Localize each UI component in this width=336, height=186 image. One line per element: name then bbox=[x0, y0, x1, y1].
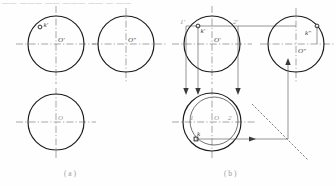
projection-arrow-1-b bbox=[183, 26, 188, 95]
figure-canvas: k' O' O″ O ( a ) bbox=[0, 0, 336, 186]
panel-b-front-view: k' O' 1' 2' bbox=[172, 6, 296, 84]
panel-a-group: k' O' O″ O ( a ) bbox=[16, 6, 166, 178]
front-aux-label-2-b: 2' bbox=[233, 18, 239, 26]
panel-b-top-view: k O 1 2 bbox=[172, 88, 256, 158]
drawing-sheet: —— ——— —— ——— —— — —— k' O' O″ bbox=[0, 0, 336, 186]
panel-a-front-view: k' O' bbox=[16, 6, 96, 84]
front-aux-label-1-b: 1' bbox=[180, 18, 186, 26]
caption-b: ( b ) bbox=[224, 169, 237, 178]
panel-a-side-view: O″ bbox=[92, 8, 166, 82]
panel-b-side-view: k″ O″ bbox=[260, 8, 334, 82]
top-center-label-b: O bbox=[214, 114, 219, 122]
side-center-label-a: O″ bbox=[128, 36, 136, 44]
panel-a-top-view: O bbox=[16, 88, 96, 158]
front-point-k-label-a: k' bbox=[44, 21, 49, 29]
miter-line-45deg-b bbox=[252, 104, 308, 160]
panel-b-group: k' O' 1' 2' k″ O″ bbox=[172, 6, 334, 178]
top-point-k-label-b: k bbox=[197, 130, 201, 138]
side-center-label-b: O″ bbox=[298, 47, 306, 55]
top-aux-label-1-b: 1 bbox=[190, 114, 194, 122]
transfer-arrow-horizontal-b bbox=[196, 136, 288, 141]
front-center-label-a: O' bbox=[58, 36, 65, 44]
front-center-label-b: O' bbox=[214, 36, 221, 44]
side-point-k-label-b: k″ bbox=[305, 29, 311, 37]
caption-a: ( a ) bbox=[64, 169, 77, 178]
front-point-k-marker-a bbox=[38, 25, 42, 29]
top-aux-label-2-b: 2 bbox=[228, 114, 232, 122]
top-center-label-a: O bbox=[58, 114, 63, 122]
top-text-strip: —— ——— —— ——— —— — —— bbox=[2, 0, 131, 6]
projection-arrow-3-b bbox=[235, 26, 240, 95]
front-point-k-label-b: k' bbox=[201, 27, 206, 35]
projection-arrow-2-b bbox=[195, 26, 200, 95]
